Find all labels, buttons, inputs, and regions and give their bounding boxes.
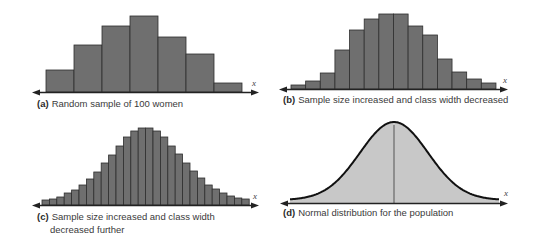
caption-tag-a: (a)	[37, 98, 49, 109]
caption-text-c1: Sample size increased and class width	[52, 211, 215, 222]
histogram-bar	[109, 155, 116, 205]
histogram-bar	[227, 196, 234, 205]
histogram-bar	[183, 163, 190, 205]
caption-a: (a)Random sample of 100 women	[37, 98, 183, 109]
axis-left-arrow-icon	[32, 90, 40, 96]
histogram-bar	[74, 45, 102, 92]
bars-c	[42, 128, 249, 205]
histogram-bar	[437, 59, 452, 89]
caption-tag-b: (b)	[283, 94, 295, 105]
axis-right-arrow-icon	[251, 90, 259, 96]
histogram-bar	[175, 154, 182, 205]
histogram-bar	[42, 200, 49, 205]
histogram-bar	[123, 137, 130, 205]
histogram-bar	[130, 16, 158, 92]
axis-right-arrow-icon	[251, 203, 259, 209]
axis-label-c: x	[252, 191, 257, 201]
figure: x (a)Random sample of 100 women x (b)Sam…	[0, 0, 534, 244]
histogram-bar	[197, 178, 204, 205]
histogram-bar	[131, 131, 138, 205]
histogram-bar	[102, 26, 130, 92]
axis-left-arrow-icon	[32, 203, 40, 209]
caption-tag-d: (d)	[283, 207, 295, 218]
histogram-bar	[242, 199, 249, 205]
histogram-bar	[72, 190, 79, 205]
histogram-bar	[160, 137, 167, 205]
histogram-bar	[234, 198, 241, 205]
histogram-bar	[86, 179, 93, 205]
histogram-bar	[481, 83, 496, 89]
histogram-bar	[212, 189, 219, 205]
histogram-bar	[101, 163, 108, 205]
panel-a-histogram: x (a)Random sample of 100 women	[32, 16, 259, 109]
histogram-bar	[291, 85, 306, 89]
caption-c-line2: decreased further	[50, 224, 124, 235]
histogram-bar	[57, 197, 64, 205]
caption-tag-c: (c)	[37, 211, 49, 222]
histogram-bar	[138, 128, 145, 205]
axis-label-d: x	[503, 188, 508, 198]
histogram-bar	[335, 50, 350, 89]
histogram-bar	[49, 199, 56, 205]
axis-label-b: x	[502, 75, 507, 85]
histogram-bar	[64, 193, 71, 205]
histogram-bar	[364, 19, 379, 89]
histogram-bar	[320, 73, 335, 89]
caption-c-line1: (c)Sample size increased and class width	[37, 211, 215, 222]
histogram-bar	[146, 128, 153, 205]
histogram-bar	[393, 14, 408, 89]
panel-d-normal-curve: x (d)Normal distribution for the populat…	[280, 122, 508, 218]
histogram-bar	[452, 72, 467, 89]
histogram-bar	[214, 83, 242, 92]
histogram-bar	[94, 172, 101, 205]
axis-left-arrow-icon	[279, 87, 287, 93]
axis-right-arrow-icon	[500, 87, 508, 93]
histogram-bar	[186, 54, 214, 92]
caption-text-b: Sample size increased and class width de…	[298, 94, 508, 105]
histogram-bar	[116, 146, 123, 205]
histogram-bar	[423, 35, 438, 89]
histogram-bar	[168, 146, 175, 205]
axis-right-arrow-icon	[500, 201, 508, 207]
caption-d: (d)Normal distribution for the populatio…	[283, 207, 453, 218]
caption-b: (b)Sample size increased and class width…	[283, 94, 508, 105]
panel-b-histogram: x (b)Sample size increased and class wid…	[279, 14, 508, 105]
axis-label-a: x	[251, 78, 256, 88]
histogram-bar	[190, 171, 197, 205]
histogram-bar	[205, 185, 212, 205]
histogram-bar	[79, 185, 86, 205]
caption-text-d: Normal distribution for the population	[298, 207, 453, 218]
histogram-bar	[467, 79, 482, 89]
panel-c-histogram: x (c)Sample size increased and class wid…	[32, 128, 259, 235]
caption-text-a: Random sample of 100 women	[52, 98, 184, 109]
bars-b	[291, 14, 496, 89]
histogram-bar	[158, 37, 186, 92]
histogram-bar	[379, 14, 394, 89]
bars-a	[46, 16, 242, 92]
histogram-bar	[46, 70, 74, 92]
histogram-bar	[220, 193, 227, 205]
histogram-bar	[408, 26, 423, 89]
axis-left-arrow-icon	[280, 201, 288, 207]
histogram-bar	[306, 81, 321, 89]
histogram-bar	[350, 30, 365, 89]
histogram-bar	[153, 131, 160, 205]
